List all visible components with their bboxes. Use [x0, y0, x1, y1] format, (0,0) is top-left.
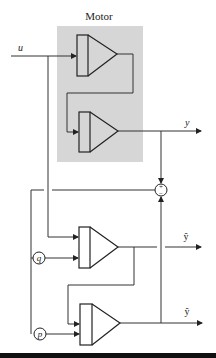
svg-text:u: u	[18, 42, 23, 53]
model-stage-2-block	[80, 304, 120, 345]
estimate-1-output: ŷ	[118, 231, 201, 247]
motor-title: Motor	[85, 10, 113, 22]
param-p-node: p	[34, 328, 79, 340]
model-stage-1-block	[79, 227, 118, 268]
svg-text:−: −	[159, 190, 163, 198]
sum-junction: + −	[155, 183, 167, 198]
param-q-node: q	[31, 252, 78, 264]
svg-text:p: p	[37, 329, 43, 339]
svg-text:y: y	[184, 117, 190, 128]
svg-text:ŷ: ŷ	[184, 231, 189, 242]
model-internal-link	[68, 247, 134, 324]
motor-box	[57, 26, 143, 162]
svg-text:ŷ: ŷ	[185, 306, 190, 317]
svg-text:q: q	[37, 253, 42, 263]
motor-model-diagram: Motor u y + − q	[0, 0, 216, 358]
bottom-rule	[0, 353, 216, 358]
error-feedback-line	[31, 190, 155, 334]
